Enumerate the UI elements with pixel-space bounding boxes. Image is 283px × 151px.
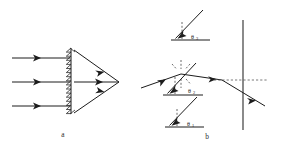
angle-marker-theta-1: θ 1: [165, 97, 204, 128]
angle-marker-theta-2: θ 2: [163, 63, 203, 95]
converging-ray-top: [74, 50, 119, 82]
theta2-subscript: 2: [193, 90, 195, 95]
normal-tick-upleft: [172, 64, 177, 69]
theta1-ray: [170, 97, 198, 126]
arrowhead-incident-panel-b: [157, 79, 166, 86]
caption-a: a: [61, 130, 65, 139]
converging-ray-bottom: [74, 82, 119, 113]
theta2-ray: [168, 63, 197, 94]
panel-a-converging-rays: [74, 50, 119, 113]
theta3-ray: [176, 10, 204, 39]
theta1-symbol: θ: [187, 120, 190, 127]
screen-group: [214, 20, 268, 130]
theta3-subscript: 3: [196, 36, 198, 41]
angle-marker-theta-3: θ 3: [171, 10, 210, 41]
arrowhead-converge-top: [95, 71, 104, 77]
caption-b: b: [205, 132, 209, 141]
theta2-symbol: θ: [188, 87, 191, 94]
normal-tick-upright: [186, 64, 191, 69]
panel-a-incident-rays: [12, 54, 70, 109]
optical-diagram-figure: a θ 3 θ 2: [0, 0, 283, 151]
refraction-point-group: [141, 60, 222, 88]
normal-tick-downright: [186, 79, 191, 84]
panel-b: θ 3 θ 2 θ 1: [141, 10, 268, 141]
diagram-canvas: a θ 3 θ 2: [0, 0, 283, 151]
arrowhead-converge-bottom: [95, 87, 104, 93]
panel-a: a: [12, 48, 119, 139]
arrowhead-exit-ray: [247, 98, 256, 104]
theta1-subscript: 1: [192, 123, 194, 128]
arrowhead-refracted: [208, 76, 217, 82]
theta3-symbol: θ: [191, 33, 194, 40]
